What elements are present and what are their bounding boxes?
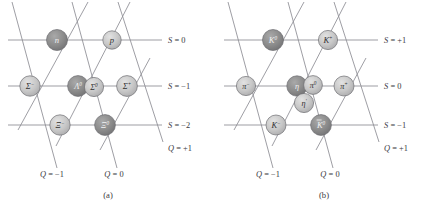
node-xi-zero[interactable]: Ξ0 [95, 115, 116, 136]
q-label-minus1: Q= −1 [256, 170, 280, 179]
panel-b: K0K+π−ηπ0η′π+K−K0 S= +1S= 0S= −1Q= −1Q= … [216, 0, 432, 210]
axis-label-group-b: S= +1S= 0S= −1Q= −1Q= 0Q= +1 [256, 36, 408, 179]
node-proton-circle[interactable] [103, 31, 121, 49]
panel-caption-a: (a) [103, 190, 113, 200]
node-sigma-zero[interactable]: Σ0 [84, 77, 103, 96]
node-kaon-zero-bar[interactable]: K0 [311, 115, 332, 136]
s-label-plus1: S= +1 [384, 36, 406, 45]
node-eta-prime[interactable]: η′ [294, 93, 313, 112]
diag-line-1 [18, 2, 88, 130]
panel-a-svg: npΣ−Λ0Σ0Σ+Ξ−Ξ0 S= 0S= −1S= −2Q= −1Q= 0Q=… [0, 0, 216, 210]
q-label-plus1: Q= +1 [384, 144, 408, 153]
node-pion-plus[interactable]: π+ [334, 76, 354, 96]
s-label-minus1: S= −1 [384, 121, 406, 130]
diag-line-1 [234, 2, 304, 130]
q-line-plus1 [118, 2, 163, 142]
panel-caption-b: (b) [319, 190, 329, 200]
diag-line-3 [316, 58, 366, 150]
diag-line-3 [100, 58, 150, 150]
axis-label-group-a: S= 0S= −1S= −2Q= −1Q= 0Q= +1 [40, 36, 192, 179]
s-label-minus2: S= −2 [168, 121, 190, 130]
s-label-0: S= 0 [384, 82, 401, 91]
node-sigma-minus-circle[interactable] [20, 76, 40, 96]
q-line-plus1 [334, 2, 379, 142]
node-sigma-plus-circle[interactable] [117, 76, 138, 97]
node-xi-zero-circle[interactable] [95, 115, 116, 136]
node-pion-zero-circle[interactable] [304, 76, 323, 95]
node-eta-prime-circle[interactable] [294, 93, 313, 112]
node-kaon-zero[interactable]: K0 [263, 30, 284, 51]
node-kaon-minus[interactable]: K− [266, 115, 286, 135]
node-pion-zero[interactable]: π0 [304, 76, 323, 95]
node-sigma-minus[interactable]: Σ− [20, 76, 40, 96]
node-sigma-plus[interactable]: Σ+ [117, 76, 138, 97]
node-pion-minus[interactable]: π− [236, 76, 255, 95]
s-label-0: S= 0 [168, 36, 185, 45]
panel-a: npΣ−Λ0Σ0Σ+Ξ−Ξ0 S= 0S= −1S= −2Q= −1Q= 0Q=… [0, 0, 216, 210]
node-neutron[interactable]: n [47, 30, 68, 51]
q-label-0: Q= 0 [320, 170, 339, 179]
node-pion-minus-circle[interactable] [236, 76, 255, 95]
node-kaon-zero-circle[interactable] [263, 30, 284, 51]
node-pion-plus-circle[interactable] [334, 76, 354, 96]
node-xi-minus-circle[interactable] [50, 115, 70, 135]
node-kaon-plus-circle[interactable] [318, 30, 337, 49]
q-label-0: Q= 0 [104, 170, 123, 179]
node-kaon-minus-circle[interactable] [266, 115, 286, 135]
s-label-minus1: S= −1 [168, 82, 190, 91]
q-label-minus1: Q= −1 [40, 170, 64, 179]
node-proton[interactable]: p [103, 31, 121, 49]
figure-root: npΣ−Λ0Σ0Σ+Ξ−Ξ0 S= 0S= −1S= −2Q= −1Q= 0Q=… [0, 0, 432, 210]
node-kaon-zero-bar-circle[interactable] [311, 115, 332, 136]
node-sigma-zero-circle[interactable] [84, 77, 103, 96]
panel-b-svg: K0K+π−ηπ0η′π+K−K0 S= +1S= 0S= −1Q= −1Q= … [216, 0, 432, 210]
node-group-a: npΣ−Λ0Σ0Σ+Ξ−Ξ0 [20, 30, 138, 136]
node-group-b: K0K+π−ηπ0η′π+K−K0 [236, 30, 354, 136]
node-neutron-circle[interactable] [47, 30, 68, 51]
node-xi-minus[interactable]: Ξ− [50, 115, 70, 135]
node-kaon-plus[interactable]: K+ [318, 30, 337, 49]
q-label-plus1: Q= +1 [168, 144, 192, 153]
